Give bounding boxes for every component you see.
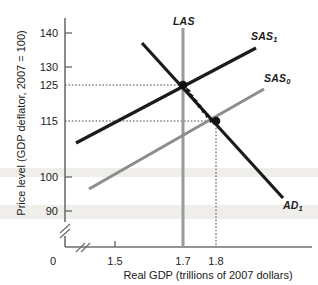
- ad1-curve-label-subscript: 1: [299, 204, 303, 213]
- equilibrium-point-new: [179, 81, 188, 90]
- x-tick-label-15: 1.5: [100, 256, 130, 267]
- x-axis-title: Real GDP (trillions of 2007 dollars): [98, 270, 318, 281]
- x-tick-label-0: 0: [38, 256, 68, 267]
- sas1-curve-label-text: SAS: [251, 30, 273, 42]
- ad1-curve-label-text: AD: [283, 199, 299, 211]
- ad1-curve-label: AD1: [283, 200, 303, 211]
- sas0-curve: [89, 89, 264, 189]
- y-axis-break-mark-1: [60, 224, 70, 233]
- y-tick-label-130: 130: [26, 62, 58, 73]
- y-tick-label-140: 140: [26, 28, 58, 39]
- equilibrium-point-initial: [212, 117, 221, 126]
- sas1-curve: [76, 48, 256, 143]
- sas1-curve-label-subscript: 1: [273, 35, 277, 44]
- y-tick-label-125: 125: [26, 80, 58, 91]
- las-curve-label: LAS: [173, 16, 195, 27]
- plot-area: [0, 0, 318, 285]
- x-tick-label-18: 1.8: [201, 256, 231, 267]
- sas1-curve-label: SAS1: [251, 31, 278, 42]
- y-axis-title: Price level (GDP deflator, 2007 = 100): [16, 18, 27, 228]
- sas0-curve-label-subscript: 0: [286, 77, 290, 86]
- sas0-curve-label-text: SAS: [264, 72, 286, 84]
- chart-figure: 140 130 125 115 100 90 0 1.5 1.7 1.8 LAS…: [0, 0, 318, 285]
- y-tick-label-90: 90: [26, 206, 58, 217]
- y-tick-label-100: 100: [26, 172, 58, 183]
- x-tick-label-17: 1.7: [168, 256, 198, 267]
- y-tick-label-115: 115: [26, 116, 58, 127]
- sas0-curve-label: SAS0: [264, 73, 291, 84]
